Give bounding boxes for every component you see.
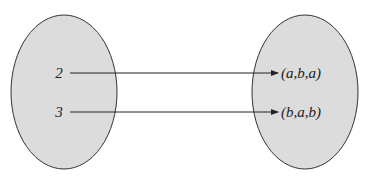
mapping-diagram: 2 3 (a,b,a) (b,a,b) [0,0,368,177]
codomain-element-2: (b,a,b) [281,104,321,121]
codomain-set-ellipse [252,15,358,169]
codomain-element-1: (a,b,a) [281,65,321,82]
domain-set-ellipse [11,15,117,169]
domain-element-1: 2 [55,65,63,81]
domain-element-2: 3 [54,104,63,120]
